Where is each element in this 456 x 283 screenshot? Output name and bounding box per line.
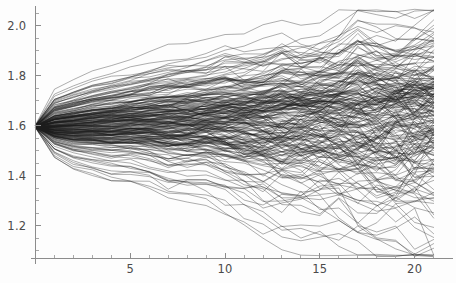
x-axis-tick-label: 20 (407, 262, 422, 276)
y-axis-tick-label: 2.0 (7, 19, 26, 33)
y-axis-tick-label: 1.2 (7, 219, 26, 233)
y-axis-tick-label: 1.8 (7, 69, 26, 83)
x-axis-tick-label: 15 (312, 262, 327, 276)
y-axis-tick-label: 1.4 (7, 169, 26, 183)
x-axis-tick-label: 5 (126, 262, 134, 276)
y-axis-tick-label: 1.6 (7, 119, 26, 133)
x-axis-tick-label: 10 (217, 262, 232, 276)
line-chart-canvas: 51015201.21.41.61.82.0 (0, 0, 456, 283)
chart-figure: 51015201.21.41.61.82.0 (0, 0, 456, 283)
